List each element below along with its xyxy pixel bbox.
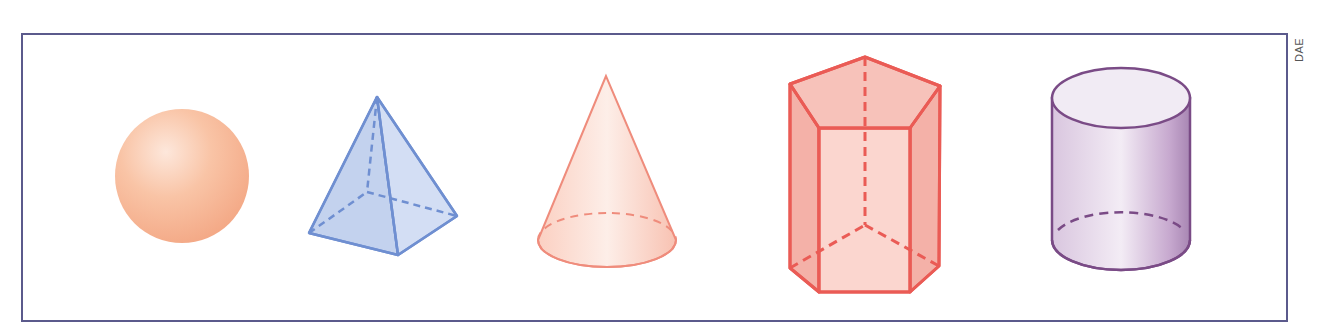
cylinder-shape — [1052, 68, 1190, 270]
solids-illustration — [0, 0, 1333, 332]
pyramid-shape — [309, 97, 457, 255]
sphere-shape — [115, 109, 249, 243]
cone-shape — [538, 76, 676, 267]
pentagonal-prism-shape — [790, 57, 940, 292]
